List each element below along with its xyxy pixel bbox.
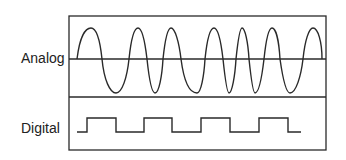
analog-sine-wave (77, 28, 322, 93)
digital-square-wave (77, 118, 301, 132)
digital-label: Digital (21, 121, 60, 135)
signal-diagram (0, 0, 346, 160)
analog-label: Analog (21, 51, 65, 65)
